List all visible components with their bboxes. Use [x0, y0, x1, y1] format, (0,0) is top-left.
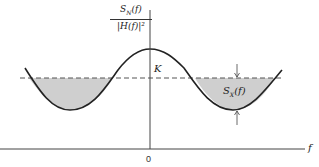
- y-axis-label-denominator: |H(f)|²: [108, 21, 154, 32]
- k-label: K: [154, 63, 161, 74]
- sx-label: SX(f): [223, 85, 246, 98]
- y-axis-label: SN(f) |H(f)|²: [108, 4, 154, 32]
- diagram-canvas: [0, 0, 319, 167]
- x-axis-label: f: [308, 142, 312, 153]
- y-axis-label-numerator: SN(f): [108, 4, 154, 18]
- arrow-down-icon: [235, 64, 240, 77]
- fraction-bar: [110, 19, 152, 20]
- origin-label: 0: [146, 154, 151, 164]
- arrow-up-icon: [235, 111, 240, 125]
